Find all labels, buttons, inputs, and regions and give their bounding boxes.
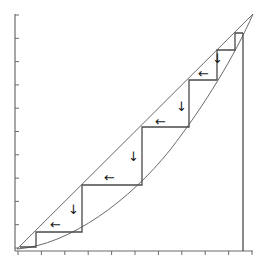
arrow-left-icon: ←	[198, 66, 209, 81]
cobweb-diagram: ←↓←↓←↓←↓	[0, 0, 266, 267]
x-axis-ticks	[18, 251, 252, 255]
y-axis-ticks	[15, 15, 19, 248]
arrow-left-icon: ←	[50, 217, 61, 232]
arrow-down-icon: ↓	[176, 99, 187, 114]
diagonal-line	[17, 14, 253, 249]
direction-arrows: ←↓←↓←↓←↓	[50, 51, 223, 232]
diagram-canvas: ←↓←↓←↓←↓	[0, 0, 266, 267]
arrow-down-icon: ↓	[212, 51, 223, 66]
staircase-path	[20, 33, 243, 247]
arrow-down-icon: ↓	[68, 202, 79, 217]
arrow-down-icon: ↓	[128, 149, 139, 164]
arrow-left-icon: ←	[155, 114, 166, 129]
arrow-left-icon: ←	[104, 170, 115, 185]
